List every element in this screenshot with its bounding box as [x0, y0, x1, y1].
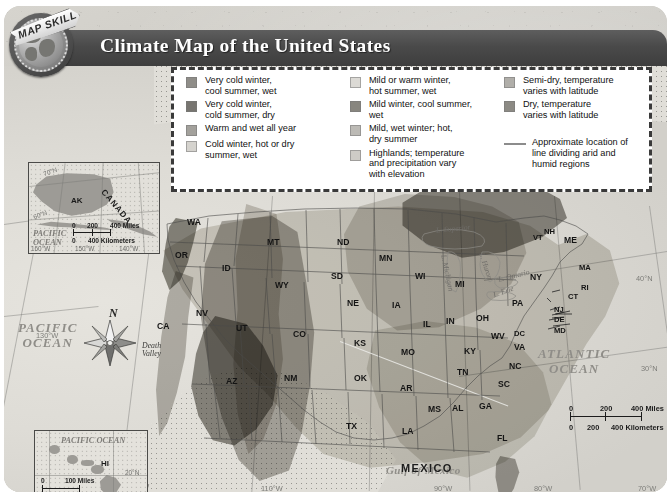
- legend-item-label: Highlands; temperature and precipitation…: [369, 148, 465, 180]
- map-legend: Very cold winter, cool summer, wet Very …: [171, 67, 652, 192]
- alaska-scale-km-zero: 0: [72, 237, 76, 244]
- graticule-label-110w: 110°W: [261, 484, 283, 492]
- hawaii-inset-map[interactable]: PACIFIC OCEAN HI 20°N 160°W 155°W 0 100 …: [34, 430, 148, 492]
- hawaii-island-kauai: [49, 445, 60, 454]
- legend-line-icon: [504, 138, 526, 149]
- map-scale-bar: 0 200 400 Miles 0 200 400 Kilometers: [569, 404, 667, 438]
- hawaii-scale-miles-zero: 0: [41, 477, 45, 484]
- map-card: PACIFIC OCEAN ATLANTIC OCEAN Gulf of Mex…: [4, 6, 667, 492]
- alaska-scale-miles-mid: 200: [87, 222, 98, 229]
- legend-column-1: Very cold winter, cool summer, wet Very …: [180, 75, 350, 184]
- scale-km-end: 400 Kilometers: [611, 423, 664, 432]
- alaska-scale-miles-end: 400 Miles: [110, 222, 139, 229]
- legend-item: Highlands; temperature and precipitation…: [350, 148, 504, 180]
- alaska-inset-map[interactable]: 70°N 60°N 160°W 150°W 140°W AK CANADA PA…: [28, 162, 160, 254]
- graticule-label-30n: 30°N: [641, 364, 658, 373]
- legend-swatch-icon: [186, 141, 197, 152]
- legend-column-3: Semi-dry, temperature varies with latitu…: [504, 75, 643, 184]
- hawaii-scale-tick-1: [79, 485, 80, 492]
- hawaii-scale-rule: [42, 488, 80, 489]
- alaska-scale-km-end: 400 Kilometers: [88, 237, 135, 244]
- legend-swatch-icon: [186, 125, 197, 136]
- graticule-label-40n: 40°N: [636, 274, 653, 283]
- legend-item: Cold winter, hot or dry summer, wet: [186, 139, 350, 160]
- page-title: Climate Map of the United States: [100, 35, 391, 57]
- alaska-scale-miles-zero: 0: [72, 222, 76, 229]
- scale-tick-0: [570, 412, 571, 421]
- legend-item-label: Mild or warm winter, hot summer, wet: [369, 75, 451, 96]
- legend-swatch-icon: [350, 125, 361, 136]
- alaska-state-label: AK: [71, 196, 83, 205]
- legend-item-line: Approximate location of line dividing ar…: [504, 137, 643, 169]
- legend-item: Dry, temperature varies with latitude: [504, 99, 643, 120]
- graticule-label-80w: 80°W: [534, 484, 552, 492]
- alaska-scale-tick-2: [110, 229, 111, 236]
- legend-item-label: Dry, temperature varies with latitude: [523, 99, 599, 120]
- legend-swatch-icon: [504, 101, 515, 112]
- legend-item: Mild or warm winter, hot summer, wet: [350, 75, 504, 96]
- legend-item-label: Semi-dry, temperature varies with latitu…: [523, 75, 614, 96]
- scale-miles-end: 400 Miles: [631, 404, 664, 413]
- legend-swatch-icon: [350, 101, 361, 112]
- compass-star-icon: [82, 318, 138, 368]
- hawaii-scale-bar: 0 100 Miles 0 100 Kilometers: [41, 477, 125, 492]
- screenshot-root: PACIFIC OCEAN ATLANTIC OCEAN Gulf of Mex…: [0, 0, 671, 497]
- alaska-scale-tick-1: [92, 229, 93, 236]
- legend-item-label: Mild, wet winter; hot, dry summer: [369, 123, 453, 144]
- legend-item-label: Cold winter, hot or dry summer, wet: [205, 139, 294, 160]
- legend-swatch-icon: [504, 77, 515, 88]
- legend-item-label: Approximate location of line dividing ar…: [532, 137, 628, 169]
- hawaii-island-oahu: [67, 455, 78, 464]
- legend-item: Semi-dry, temperature varies with latitu…: [504, 75, 643, 96]
- legend-column-2: Mild or warm winter, hot summer, wet Mil…: [350, 75, 504, 184]
- legend-item: Warm and wet all year: [186, 123, 350, 136]
- scale-km-mid: 200: [587, 423, 599, 432]
- hawaii-lat-20n: 20°N: [125, 469, 139, 476]
- legend-item: Very cold winter, cool summer, wet: [186, 75, 350, 96]
- legend-item: Mild, wet winter; hot, dry summer: [350, 123, 504, 144]
- hawaii-pacific-label: PACIFIC OCEAN: [61, 436, 125, 445]
- graticule-label-130w: 130°W: [36, 331, 58, 340]
- map-skill-badge: MAP SKILL: [6, 8, 80, 80]
- graticule-label-70w: 70°W: [638, 484, 656, 492]
- legend-swatch-icon: [350, 150, 361, 161]
- legend-item-label: Warm and wet all year: [205, 123, 296, 134]
- scale-km-zero: 0: [569, 423, 573, 432]
- legend-item-label: Mild winter, cool summer, wet: [369, 99, 472, 120]
- legend-item-label: Very cold winter, cool summer, wet: [205, 75, 276, 96]
- hawaii-scale-tick-0: [42, 485, 43, 492]
- legend-item: Very cold winter, cold summer, dry: [186, 99, 350, 120]
- legend-item-label: Very cold winter, cold summer, dry: [205, 99, 275, 120]
- graticule-label-90w: 90°W: [434, 484, 452, 492]
- alaska-scale-tick-0: [73, 229, 74, 236]
- scale-tick-2: [641, 412, 642, 421]
- alaska-pacific-label: PACIFIC OCEAN: [33, 229, 66, 248]
- legend-swatch-icon: [350, 77, 361, 88]
- legend-item: Mild winter, cool summer, wet: [350, 99, 504, 120]
- hawaii-scale-miles-end: 100 Miles: [65, 477, 94, 484]
- alaska-scale-bar: 0 200 400 Miles 0 400 Kilometers: [72, 222, 152, 248]
- title-bar: Climate Map of the United States: [42, 30, 667, 66]
- legend-swatch-icon: [186, 77, 197, 88]
- compass-rose: N: [82, 306, 138, 368]
- scale-tick-1: [605, 412, 606, 421]
- legend-swatch-icon: [186, 101, 197, 112]
- hawaii-state-label: HI: [101, 459, 109, 468]
